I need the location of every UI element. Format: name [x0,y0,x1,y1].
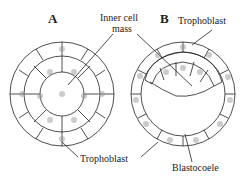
leader-trophoblast-top [192,30,212,45]
trophoblast-label-top: Trophoblast [178,16,226,26]
panel-b-blastocyst [131,42,235,146]
blastocoele-label: Blastocoele [172,163,219,173]
inner-cell-mass-label-line1: Inner cell [100,13,138,23]
panel-b-label: B [160,14,169,24]
leader-trophoblast-b [141,142,158,157]
leader-inner-cell-mass-a [68,34,113,85]
panel-a-label: A [48,14,57,24]
leader-blastocoele [185,134,192,162]
trophoblast-label-bottom: Trophoblast [80,154,128,164]
inner-cell-mass-label-line2: mass [112,24,132,34]
